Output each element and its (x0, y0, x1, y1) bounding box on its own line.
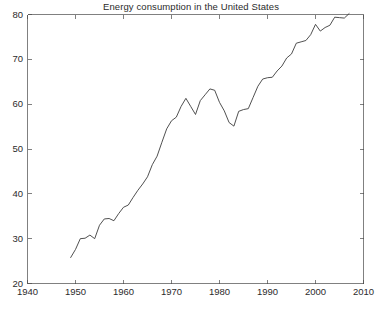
y-tick-label-40: 40 (12, 188, 23, 199)
x-tick-label-1960: 1960 (113, 286, 134, 297)
x-tick-label-1980: 1980 (209, 286, 230, 297)
x-tick-label-1950: 1950 (65, 286, 86, 297)
y-tick-label-60: 60 (12, 98, 23, 109)
y-tick-label-70: 70 (12, 53, 23, 64)
x-tick-label-1990: 1990 (257, 286, 278, 297)
x-tick-label-2010: 2010 (353, 286, 374, 297)
y-tick-label-80: 80 (12, 9, 23, 20)
y-tick-label-30: 30 (12, 233, 23, 244)
data-series-energy-consumption (71, 14, 349, 258)
y-tick-labels: 20 30 40 50 60 70 80 (12, 9, 23, 289)
y-tick-label-50: 50 (12, 143, 23, 154)
chart-figure: Energy consumption in the United States (0, 0, 382, 319)
y-tick-label-20: 20 (12, 278, 23, 289)
chart-plot-area: 1940 1950 1960 1970 1980 1990 2000 2010 … (0, 0, 382, 319)
x-tick-labels: 1940 1950 1960 1970 1980 1990 2000 2010 (17, 286, 374, 297)
x-tick-label-1970: 1970 (161, 286, 182, 297)
x-tick-label-2000: 2000 (305, 286, 326, 297)
